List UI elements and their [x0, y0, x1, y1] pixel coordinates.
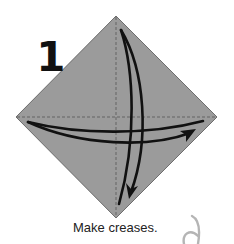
step-number: 1: [36, 37, 65, 77]
caption: Make creases.: [73, 220, 158, 235]
corner-glyph-icon: [184, 216, 199, 244]
origami-step-diagram: [0, 0, 234, 244]
